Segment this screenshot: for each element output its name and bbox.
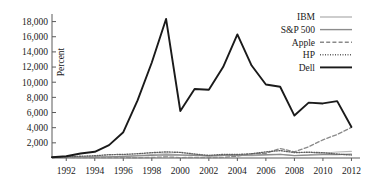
legend-label-s-p-500: S&P 500 xyxy=(281,25,315,35)
y-tick-label: 6,000 xyxy=(27,108,49,118)
y-tick-label: 2,000 xyxy=(27,138,49,148)
y-axis-ticks: 2,0004,0006,0008,00010,00012,00014,00016… xyxy=(22,17,56,148)
x-tick-label: 2006 xyxy=(256,166,275,176)
x-tick-label: 1992 xyxy=(57,166,76,176)
line-chart: 2,0004,0006,0008,00010,00012,00014,00016… xyxy=(0,0,368,196)
legend-label-hp: HP xyxy=(303,50,315,60)
legend-label-apple: Apple xyxy=(292,38,315,48)
x-tick-label: 2010 xyxy=(313,166,332,176)
y-tick-label: 8,000 xyxy=(27,93,49,103)
legend-label-ibm: IBM xyxy=(297,12,316,22)
x-tick-label: 1998 xyxy=(142,166,161,176)
y-axis-title: Percent xyxy=(56,47,66,76)
x-tick-label: 2002 xyxy=(199,166,218,176)
y-tick-label: 12,000 xyxy=(22,62,48,72)
y-tick-label: 10,000 xyxy=(22,78,48,88)
series-line-apple xyxy=(52,127,351,157)
x-tick-label: 2000 xyxy=(171,166,190,176)
x-tick-label: 1996 xyxy=(114,166,133,176)
x-tick-label: 1994 xyxy=(85,166,104,176)
legend-label-dell: Dell xyxy=(299,63,316,73)
y-tick-label: 18,000 xyxy=(22,17,48,27)
chart-container: 2,0004,0006,0008,00010,00012,00014,00016… xyxy=(0,0,368,196)
y-tick-label: 14,000 xyxy=(22,47,48,57)
x-tick-label: 2008 xyxy=(285,166,304,176)
chart-legend: IBMS&P 500AppleHPDell xyxy=(281,12,352,72)
y-tick-label: 4,000 xyxy=(27,123,49,133)
x-tick-label: 2004 xyxy=(228,166,247,176)
y-tick-label: 16,000 xyxy=(22,32,48,42)
x-tick-label: 2012 xyxy=(342,166,361,176)
x-axis-ticks: 1992199419961998200020022004200620082010… xyxy=(57,158,361,176)
